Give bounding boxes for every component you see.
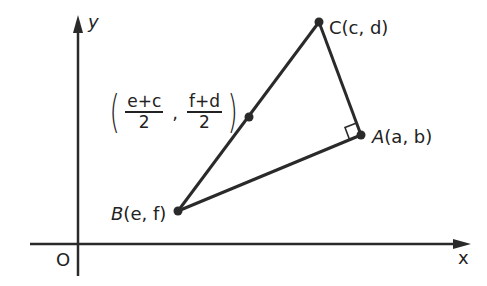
diagram-canvas: y x O C(c, d) A(a, b) B(e, f) ( e+c 2 , … [0,0,487,286]
midpoint-x-numerator: e+c [125,93,163,113]
midpoint-y-denominator: 2 [199,113,210,132]
midpoint-y-numerator: f+d [187,93,222,113]
point-B [174,207,183,216]
point-B-name: B [111,203,123,224]
point-A-name: A [372,126,384,147]
point-A-label: A(a, b) [372,128,432,146]
left-paren: ( [109,90,119,134]
point-B-coords: (e, f) [123,203,166,224]
point-C [315,18,324,27]
y-axis-label: y [88,13,99,31]
midpoint-comma: , [172,102,178,123]
x-axis [30,239,471,249]
y-axis [73,15,83,276]
right-paren: ) [227,90,237,134]
origin-label: O [56,251,70,269]
y-axis-arrow-icon [73,15,83,33]
point-A-coords: (a, b) [384,126,432,147]
midpoint-BC [245,113,254,122]
x-axis-label: x [458,249,469,267]
midpoint-x-denominator: 2 [139,113,150,132]
point-B-label: B(e, f) [111,205,166,223]
segment-CA [319,22,361,135]
point-A [357,131,366,140]
midpoint-formula: ( e+c 2 , f+d 2 ) [106,90,241,134]
point-C-label: C(c, d) [329,19,388,37]
midpoint-x-fraction: e+c 2 [125,93,163,132]
midpoint-y-fraction: f+d 2 [187,93,222,132]
